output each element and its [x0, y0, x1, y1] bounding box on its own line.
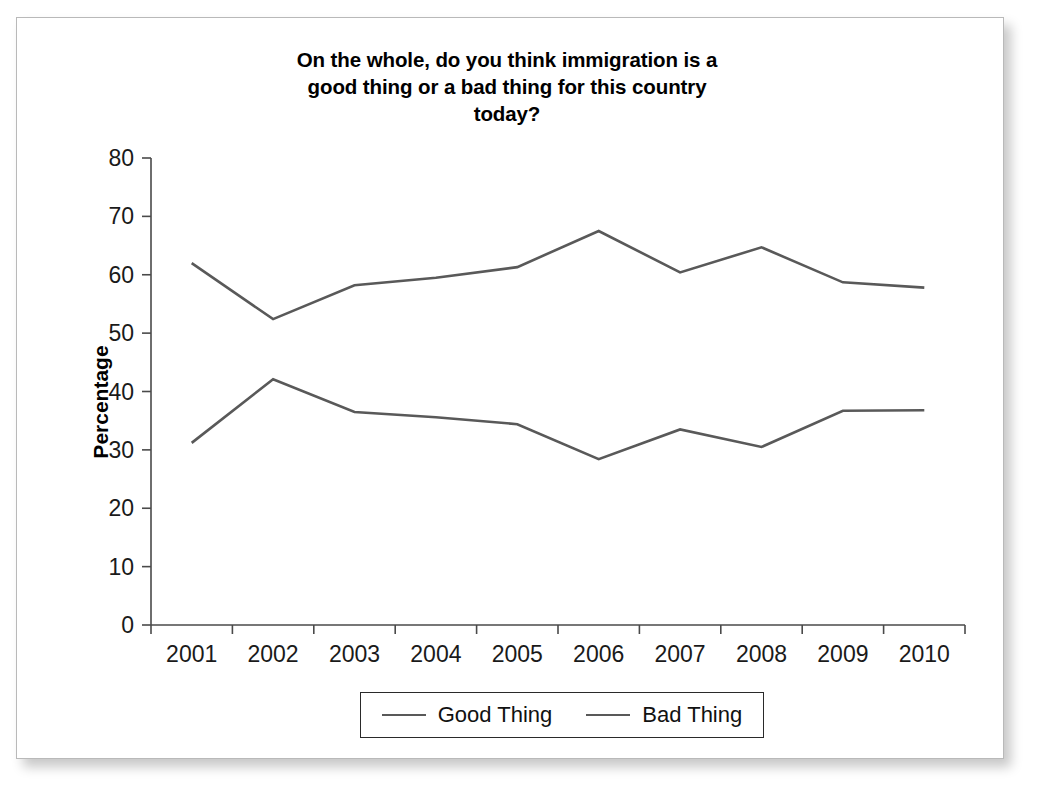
x-tick-label: 2003 [329, 641, 380, 667]
legend-item-bad-thing[interactable]: Bad Thing [586, 702, 742, 728]
screenshot-page: On the whole, do you think immigration i… [0, 0, 1038, 793]
x-tick-label: 2005 [492, 641, 543, 667]
x-tick-label: 2006 [573, 641, 624, 667]
x-tick-label: 2010 [899, 641, 950, 667]
line-chart-svg: 01020304050607080 2001200220032004200520… [17, 18, 1005, 760]
x-axis-ticks: 2001200220032004200520062007200820092010 [151, 625, 965, 667]
x-tick-label: 2002 [248, 641, 299, 667]
y-tick-label: 60 [108, 262, 134, 288]
legend-label-bad-thing: Bad Thing [642, 702, 742, 728]
y-tick-label: 30 [108, 437, 134, 463]
x-tick-label: 2001 [166, 641, 217, 667]
y-tick-label: 10 [108, 554, 134, 580]
y-tick-label: 70 [108, 203, 134, 229]
legend-line-swatch-good-thing [382, 714, 426, 716]
y-tick-label: 50 [108, 320, 134, 346]
y-tick-label: 80 [108, 145, 134, 171]
y-axis-ticks: 01020304050607080 [108, 145, 151, 638]
x-tick-label: 2007 [655, 641, 706, 667]
plot-area: Percentage 01020304050607080 20012002200… [17, 18, 1005, 760]
y-tick-label: 20 [108, 495, 134, 521]
y-tick-label: 40 [108, 379, 134, 405]
legend-label-good-thing: Good Thing [438, 702, 553, 728]
legend-line-swatch-bad-thing [586, 714, 630, 716]
x-tick-label: 2009 [817, 641, 868, 667]
chart-card: On the whole, do you think immigration i… [16, 17, 1004, 759]
data-series-group [192, 231, 925, 459]
x-tick-label: 2004 [410, 641, 461, 667]
x-tick-label: 2008 [736, 641, 787, 667]
series-line-bad-thing [192, 379, 925, 459]
series-line-good-thing [192, 231, 925, 319]
chart-legend: Good Thing Bad Thing [360, 692, 764, 738]
legend-item-good-thing[interactable]: Good Thing [382, 702, 553, 728]
y-tick-label: 0 [121, 612, 134, 638]
